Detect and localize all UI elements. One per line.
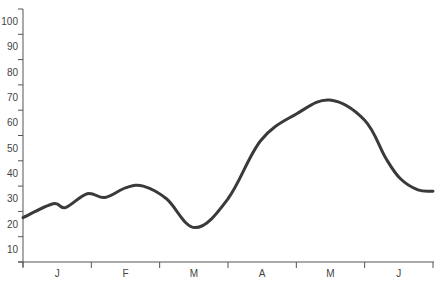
y-tick-label: 20: [7, 219, 19, 230]
series-line: [23, 100, 433, 228]
y-tick-label: 10: [7, 244, 19, 255]
y-tick-label: 60: [7, 117, 19, 128]
y-tick-label: 90: [7, 41, 19, 52]
y-tick-label: 70: [7, 92, 19, 103]
y-axis: 102030405060708090100: [1, 9, 23, 267]
x-tick-label: J: [55, 268, 60, 279]
y-tick-label: 50: [7, 143, 19, 154]
x-tick-label: M: [190, 268, 198, 279]
x-tick-label: F: [122, 268, 128, 279]
x-tick-label: A: [259, 268, 266, 279]
y-tick-label: 40: [7, 168, 19, 179]
x-axis: JFMAMJ: [18, 262, 434, 279]
y-tick-label: 100: [1, 16, 18, 27]
y-tick-label: 30: [7, 193, 19, 204]
line-chart: 102030405060708090100 JFMAMJ: [0, 0, 442, 286]
x-tick-label: M: [326, 268, 334, 279]
y-tick-label: 80: [7, 67, 19, 78]
x-tick-label: J: [396, 268, 401, 279]
